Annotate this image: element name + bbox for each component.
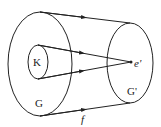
label-e-prime: e' bbox=[134, 58, 141, 69]
label-g: G bbox=[35, 98, 43, 109]
identity-point bbox=[130, 61, 133, 64]
label-k: K bbox=[33, 57, 41, 68]
label-f: f bbox=[81, 114, 84, 125]
label-g-prime: G' bbox=[127, 86, 137, 97]
homomorphism-diagram: K G G' e' f bbox=[0, 0, 161, 127]
